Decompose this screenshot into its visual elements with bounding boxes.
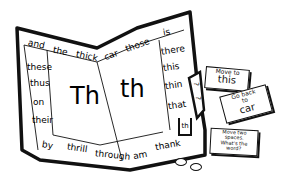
center-label-right: th <box>120 75 145 103</box>
card-text: this <box>205 73 248 87</box>
board-space: these <box>27 62 52 72</box>
game-card[interactable]: Move two spaces. What's the word? <box>209 128 258 156</box>
tab-mark: ? <box>194 96 202 100</box>
game-piece[interactable] <box>190 163 202 171</box>
board-space: on <box>33 97 44 107</box>
center-label-left: Th <box>70 82 100 110</box>
board-space: thus <box>30 78 50 88</box>
start-arrow-icon: th <box>178 118 192 136</box>
board-space: by <box>41 139 54 151</box>
game-piece[interactable] <box>175 158 187 166</box>
tab-mark: ? <box>192 82 200 86</box>
board-space: their <box>32 115 53 125</box>
game-card[interactable]: Move to this <box>204 66 250 92</box>
card-text: word? <box>211 145 257 153</box>
board-space: is <box>162 26 171 37</box>
